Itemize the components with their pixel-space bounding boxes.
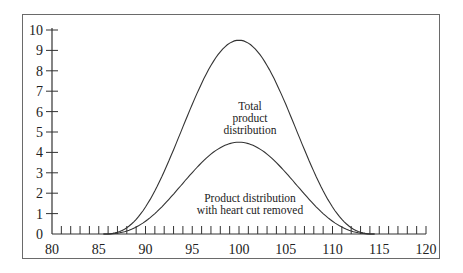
x-tick-label: 100 [229, 242, 250, 257]
x-tick-label: 80 [45, 242, 59, 257]
x-tick-label: 90 [139, 242, 153, 257]
annotation-line: product [205, 112, 295, 124]
annotation-line: Total [205, 100, 295, 112]
y-tick-label: 5 [36, 125, 43, 140]
y-tick-label: 1 [36, 207, 43, 222]
x-tick-label: 110 [322, 242, 342, 257]
y-tick-label: 10 [29, 23, 43, 38]
x-tick-label: 95 [185, 242, 199, 257]
annotation-total: Total product distribution [205, 100, 295, 136]
y-tick-label: 6 [36, 105, 43, 120]
y-tick-label: 2 [36, 186, 43, 201]
curve-heart-cut-removed [103, 142, 374, 234]
annotation-heart-cut: Product distribution with heart cut remo… [180, 192, 320, 216]
y-tick-label: 0 [36, 227, 43, 242]
y-tick-label: 8 [36, 64, 43, 79]
x-tick-label: 120 [416, 242, 437, 257]
y-tick-label: 9 [36, 43, 43, 58]
y-tick-label: 4 [36, 145, 43, 160]
y-tick-label: 7 [36, 84, 43, 99]
chart-plot: 01234567891080859095100105110115120 [0, 0, 463, 273]
y-tick-label: 3 [36, 166, 43, 181]
x-tick-label: 85 [92, 242, 106, 257]
annotation-line: Product distribution [180, 192, 320, 204]
x-tick-label: 105 [275, 242, 296, 257]
x-tick-label: 115 [369, 242, 389, 257]
annotation-line: with heart cut removed [180, 204, 320, 216]
annotation-line: distribution [205, 124, 295, 136]
